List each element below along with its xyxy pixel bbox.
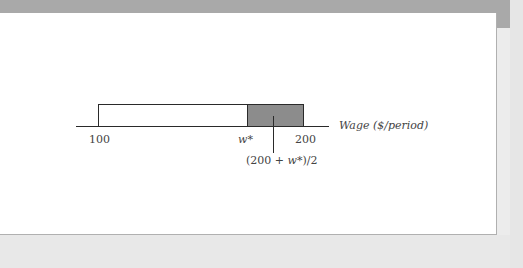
tick-label-w-star: w* [238, 134, 253, 146]
midpoint-label: (200 + w*)/2 [246, 155, 317, 167]
wage-range-bar-unshaded [98, 104, 247, 126]
midpoint-label-suffix: )/2 [302, 154, 317, 167]
wage-range-bar-shaded [247, 104, 304, 126]
tick-label-100: 100 [89, 134, 110, 146]
midpoint-pointer-line [273, 116, 274, 153]
midpoint-label-var: w* [288, 154, 303, 167]
midpoint-label-prefix: (200 + [246, 154, 288, 167]
wage-axis-line [76, 126, 329, 127]
wage-diagram: 100 w* 200 (200 + w*)/2 Wage ($/period) [0, 0, 523, 268]
tick-label-200: 200 [295, 134, 316, 146]
axis-title: Wage ($/period) [339, 120, 428, 132]
